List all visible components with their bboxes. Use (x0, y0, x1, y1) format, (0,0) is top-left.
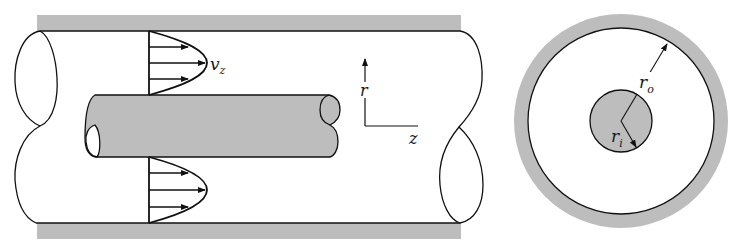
outer-pipe-right-break (459, 31, 482, 127)
annular-flow-diagram: vz r z ro ri (0, 0, 737, 252)
outer-pipe-left-break-lower (15, 126, 40, 223)
r-axis-label: r (360, 81, 369, 100)
outer-wall-top (37, 15, 461, 31)
z-axis-label: z (408, 129, 418, 148)
cross-section: ro ri (514, 14, 728, 228)
outer-wall-bottom (37, 223, 461, 239)
inner-rod (85, 95, 340, 157)
side-view: vz r z (15, 15, 483, 239)
outer-pipe-left-break (15, 31, 57, 126)
